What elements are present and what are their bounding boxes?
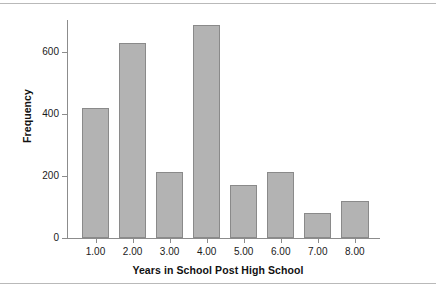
x-tick-mark bbox=[318, 239, 319, 243]
y-axis-title: Frequency bbox=[21, 56, 33, 176]
y-tick-mark bbox=[62, 52, 67, 53]
x-tick-mark bbox=[207, 239, 208, 243]
x-tick-label: 6.00 bbox=[261, 246, 301, 257]
x-axis-line bbox=[67, 238, 380, 239]
x-tick-mark bbox=[170, 239, 171, 243]
x-tick-label: 5.00 bbox=[224, 246, 264, 257]
bar bbox=[341, 201, 368, 238]
bar bbox=[82, 108, 109, 238]
histogram-figure: 0200400600 1.002.003.004.005.006.007.008… bbox=[0, 0, 436, 293]
y-tick-label: 0 bbox=[1, 233, 59, 243]
x-tick-mark bbox=[244, 239, 245, 243]
bar bbox=[304, 213, 331, 238]
bar bbox=[230, 185, 257, 238]
x-tick-mark bbox=[281, 239, 282, 243]
bar bbox=[119, 43, 146, 238]
bottom-divider-line bbox=[0, 283, 436, 284]
x-tick-label: 3.00 bbox=[150, 246, 190, 257]
bar bbox=[156, 172, 183, 238]
x-tick-label: 4.00 bbox=[187, 246, 227, 257]
y-axis-line bbox=[67, 20, 68, 239]
y-tick-mark bbox=[62, 176, 67, 177]
x-tick-label: 8.00 bbox=[335, 246, 375, 257]
y-tick-mark bbox=[62, 114, 67, 115]
x-tick-label: 1.00 bbox=[76, 246, 116, 257]
bar bbox=[193, 25, 220, 238]
y-tick-mark bbox=[62, 238, 67, 239]
x-tick-mark bbox=[96, 239, 97, 243]
x-axis-title: Years in School Post High School bbox=[0, 264, 436, 276]
x-tick-label: 2.00 bbox=[113, 246, 153, 257]
bar bbox=[267, 172, 294, 238]
x-tick-mark bbox=[355, 239, 356, 243]
x-tick-mark bbox=[133, 239, 134, 243]
x-tick-label: 7.00 bbox=[298, 246, 338, 257]
top-divider-line bbox=[0, 3, 436, 4]
